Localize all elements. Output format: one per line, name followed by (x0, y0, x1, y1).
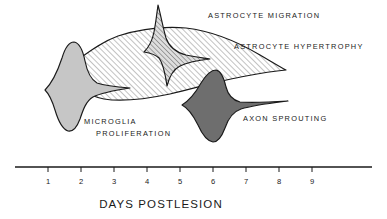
x-tick-label-2: 2 (79, 177, 83, 186)
x-tick-label-9: 9 (310, 177, 314, 186)
figure-canvas: ASTROCYTE MIGRATION ASTROCYTE HYPERTROPH… (0, 0, 387, 219)
label-microglia-proliferation-line1: MICROGLIA (84, 117, 137, 126)
label-microglia-proliferation-line2: PROLIFERATION (96, 129, 171, 138)
timeline-diagram: ASTROCYTE MIGRATION ASTROCYTE HYPERTROPH… (0, 0, 387, 219)
x-tick-label-7: 7 (244, 177, 248, 186)
x-tick-label-6: 6 (211, 177, 215, 186)
x-tick-label-4: 4 (145, 177, 149, 186)
x-tick-label-8: 8 (277, 177, 281, 186)
x-tick-label-1: 1 (46, 177, 50, 186)
label-astrocyte-migration: ASTROCYTE MIGRATION (208, 11, 320, 20)
x-axis-caption: DAYS POSTLESION (99, 198, 223, 210)
label-axon-sprouting: AXON SPROUTING (243, 114, 327, 123)
x-tick-label-5: 5 (178, 177, 182, 186)
x-axis: 1 2 3 4 5 6 7 8 9 (15, 167, 372, 186)
label-astrocyte-hypertrophy: ASTROCYTE HYPERTROPHY (234, 42, 364, 51)
x-tick-label-3: 3 (112, 177, 116, 186)
